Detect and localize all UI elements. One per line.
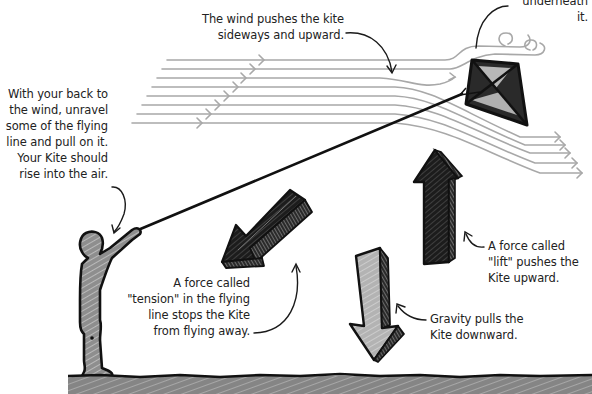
callout-gravity: Gravity pulls the Kite downward. <box>430 311 540 343</box>
tension-arrow <box>222 190 312 268</box>
gravity-arrow <box>350 248 404 362</box>
callout-underneath: underneath it. <box>508 0 588 25</box>
callout-tension: A force called "tension" in the flying l… <box>120 275 250 339</box>
lift-arrow <box>414 150 462 264</box>
kite <box>460 60 527 125</box>
ground <box>68 374 592 394</box>
callout-wind: The wind pushes the kite sideways and up… <box>190 11 344 43</box>
callout-instructions: With your back to the wind, unravel some… <box>2 86 108 182</box>
callout-lift: A force called "lift" pushes the Kite up… <box>488 238 592 286</box>
